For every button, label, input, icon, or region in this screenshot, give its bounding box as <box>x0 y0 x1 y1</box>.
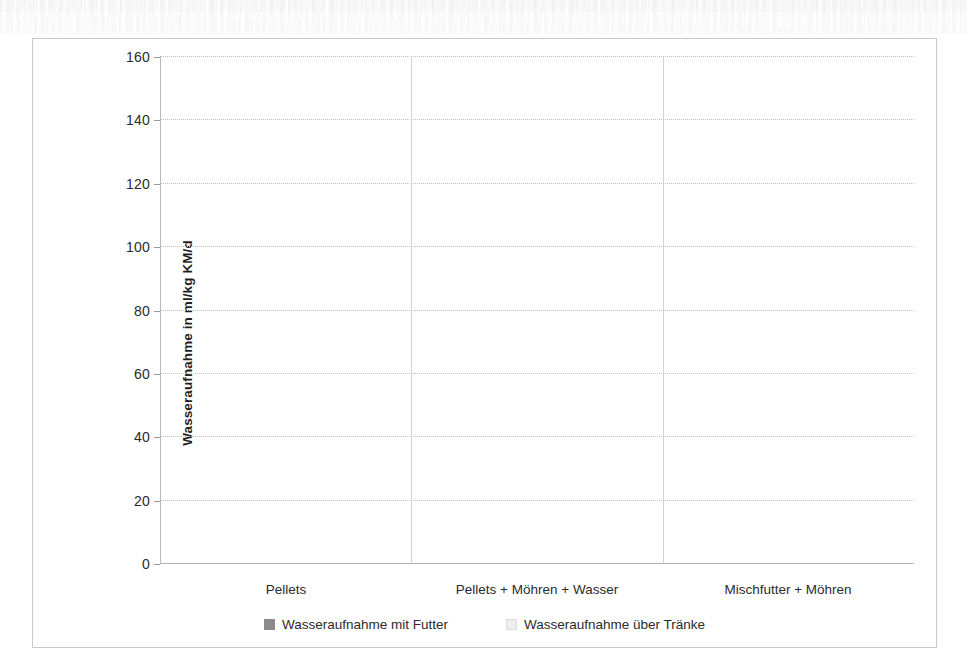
tick-mark-160 <box>154 57 160 58</box>
y-tick-label-100: 100 <box>126 239 150 255</box>
gridline-100: 100 <box>160 246 914 247</box>
y-tick-label-140: 140 <box>126 112 150 128</box>
gridline-40: 40 <box>160 436 914 437</box>
y-tick-label-160: 160 <box>126 49 150 65</box>
gridline-80: 80 <box>160 310 914 311</box>
tick-mark-120 <box>154 184 160 185</box>
gridline-120: 120 <box>160 183 914 184</box>
y-tick-label-40: 40 <box>134 429 150 445</box>
tick-mark-80 <box>154 311 160 312</box>
tick-mark-60 <box>154 374 160 375</box>
gridline-0: 0 <box>160 563 914 564</box>
legend-label-mit-futter: Wasseraufnahme mit Futter <box>282 617 448 632</box>
gridline-20: 20 <box>160 500 914 501</box>
x-tick-label-pellets-moehren-wasser: Pellets + Möhren + Wasser <box>456 582 618 597</box>
scanner-noise-band-secondary <box>0 0 967 12</box>
gridline-60: 60 <box>160 373 914 374</box>
category-divider-2 <box>663 56 664 563</box>
legend-swatch-light-icon <box>506 619 517 630</box>
tick-mark-100 <box>154 247 160 248</box>
chart-legend: Wasseraufnahme mit Futter Wasseraufnahme… <box>33 617 936 632</box>
chart-frame: Wasseraufnahme in ml/kg KM/d 160 140 120… <box>32 38 937 648</box>
legend-swatch-dark-icon <box>264 619 275 630</box>
tick-mark-20 <box>154 501 160 502</box>
tick-mark-140 <box>154 120 160 121</box>
scanner-noise-band <box>0 0 967 34</box>
gridline-160: 160 <box>160 56 914 57</box>
tick-mark-40 <box>154 437 160 438</box>
legend-item-mit-futter[interactable]: Wasseraufnahme mit Futter <box>264 617 448 632</box>
legend-item-ueber-traenke[interactable]: Wasseraufnahme über Tränke <box>506 617 705 632</box>
y-tick-label-20: 20 <box>134 493 150 509</box>
plot-area: 160 140 120 100 80 60 40 20 <box>160 56 914 563</box>
x-tick-label-mischfutter-moehren: Mischfutter + Möhren <box>724 582 851 597</box>
y-tick-label-80: 80 <box>134 303 150 319</box>
x-tick-label-pellets: Pellets <box>266 582 307 597</box>
y-tick-label-0: 0 <box>142 556 150 572</box>
y-tick-label-60: 60 <box>134 366 150 382</box>
category-divider-1 <box>411 56 412 563</box>
y-tick-label-120: 120 <box>126 176 150 192</box>
gridline-140: 140 <box>160 119 914 120</box>
legend-label-ueber-traenke: Wasseraufnahme über Tränke <box>524 617 705 632</box>
tick-mark-0 <box>154 564 160 565</box>
